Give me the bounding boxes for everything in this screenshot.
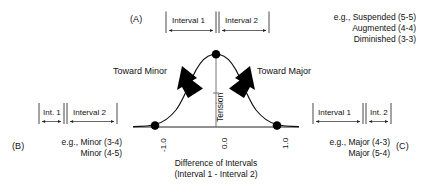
x-axis-caption: Difference of Intervals (Interval 1 - In… — [146, 158, 286, 180]
toward-major-label: Toward Major — [257, 66, 311, 76]
bracket-right-label-int2: Int. 2 — [370, 108, 388, 118]
example-augmented: Augmented (4-4) — [276, 23, 416, 34]
example-suspended: e.g., Suspended (5-5) — [276, 12, 416, 23]
bracket-left-label-interval2: Interval 2 — [73, 108, 106, 118]
data-point-peak — [212, 50, 221, 59]
x-tick-label-minus-one: -1.0 — [159, 138, 168, 152]
example-minor-45: Minor (4-5) — [0, 148, 122, 159]
toward-major-arrow — [229, 66, 255, 98]
data-point-major — [273, 121, 282, 130]
example-major-43: e.g., Major (4-3) — [268, 137, 390, 148]
x-axis-caption-line1: Difference of Intervals — [146, 158, 286, 169]
examples-right: e.g., Major (4-3) Major (5-4) — [268, 137, 390, 159]
toward-minor-label: Toward Minor — [113, 66, 167, 76]
example-minor-34: e.g., Minor (3-4) — [0, 137, 122, 148]
tension-curve-figure: (A) Interval 1 Interval 2 e.g., Suspende… — [0, 0, 423, 186]
example-major-54: Major (5-4) — [268, 148, 390, 159]
y-axis-label: Tension — [215, 93, 225, 122]
examples-top: e.g., Suspended (5-5) Augmented (4-4) Di… — [276, 12, 416, 45]
x-axis-caption-line2: (Interval 1 - Interval 2) — [146, 169, 286, 180]
examples-left: e.g., Minor (3-4) Minor (4-5) — [0, 137, 122, 159]
x-tick-label-zero: 0.0 — [220, 138, 229, 149]
data-point-minor — [151, 121, 160, 130]
bracket-right-label-interval1: Interval 1 — [318, 108, 351, 118]
panel-label-a: (A) — [130, 14, 142, 24]
bracket-left-label-int1: Int. 1 — [43, 108, 61, 118]
example-diminished: Diminished (3-3) — [276, 34, 416, 45]
bracket-top-label-interval1: Interval 1 — [172, 16, 205, 26]
toward-minor-arrow — [177, 66, 203, 98]
panel-label-c: (C) — [396, 141, 409, 151]
bracket-top-label-interval2: Interval 2 — [225, 16, 258, 26]
